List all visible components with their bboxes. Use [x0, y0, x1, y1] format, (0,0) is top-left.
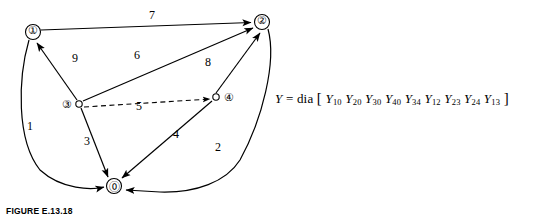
edge-2-line: [126, 29, 271, 192]
edge-1-line: [21, 40, 104, 188]
equation: Y = dia [ Y10 Y20 Y30 Y40 Y34 Y12 Y23 Y2…: [275, 90, 509, 107]
edge-label-1: 1: [27, 119, 33, 134]
equation-term: Y10: [325, 91, 341, 106]
node-label-3: ③: [60, 98, 74, 111]
edge-label-6: 6: [134, 48, 140, 63]
node-4: [213, 94, 219, 100]
equation-term: Y23: [444, 91, 460, 106]
figure-container: ① ② ③ ④ ⓪ 7 9 6 8 5 1 3 4 2 Y = dia [ Y1…: [0, 0, 548, 224]
equation-lhs: Y: [275, 91, 282, 106]
directed-graph-drawing: [0, 0, 548, 224]
equation-term: Y20: [345, 91, 361, 106]
node-label-1: ①: [26, 24, 40, 37]
edge-8-line: [216, 33, 260, 93]
edge-label-4: 4: [173, 127, 179, 142]
figure-caption: FIGURE E.13.18: [6, 206, 73, 216]
node-3: [76, 101, 82, 107]
equation-term: Y12: [424, 91, 440, 106]
equation-term: Y13: [484, 91, 500, 106]
edge-5-line: [84, 99, 210, 107]
equation-terms: Y10 Y20 Y30 Y40 Y34 Y12 Y23 Y24 Y13: [325, 91, 503, 106]
node-label-4: ④: [222, 91, 236, 104]
equation-term: Y40: [385, 91, 401, 106]
equation-term: Y30: [365, 91, 381, 106]
edge-label-5: 5: [136, 99, 142, 114]
equation-close-bracket: ]: [504, 90, 509, 106]
equation-operator: =: [286, 91, 294, 106]
equation-open-bracket: [: [317, 90, 322, 106]
equation-term: Y34: [405, 91, 421, 106]
edge-7-line: [41, 23, 251, 31]
edge-label-2: 2: [215, 140, 221, 155]
node-label-2: ②: [255, 14, 269, 27]
edge-9-line: [37, 43, 77, 100]
node-label-0: ⓪: [107, 178, 121, 194]
equation-function: dia: [297, 91, 313, 106]
edge-label-9: 9: [72, 51, 78, 66]
edge-label-7: 7: [149, 8, 155, 23]
equation-term: Y24: [464, 91, 480, 106]
edge-label-3: 3: [84, 134, 90, 149]
edge-label-8: 8: [205, 55, 211, 70]
